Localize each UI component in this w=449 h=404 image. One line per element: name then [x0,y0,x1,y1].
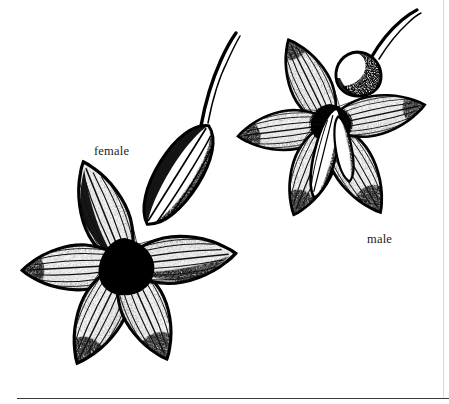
bottom-horizontal-rule [17,398,449,399]
label-female: female [94,144,129,159]
botanical-drawing [0,0,449,404]
illustration-plate: female male [0,0,449,404]
right-vertical-rule [443,0,444,398]
male-receptacle [336,52,381,96]
label-male: male [367,232,392,247]
